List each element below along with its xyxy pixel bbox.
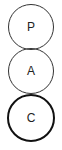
node-p: P <box>8 4 54 50</box>
node-label: A <box>27 64 35 78</box>
node-a: A <box>8 48 54 94</box>
node-label: C <box>27 111 36 125</box>
node-label: P <box>27 20 35 34</box>
node-c: C <box>7 94 55 142</box>
